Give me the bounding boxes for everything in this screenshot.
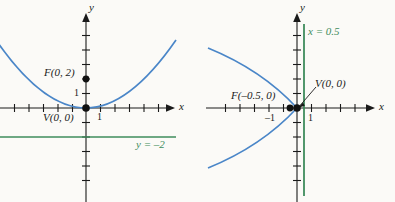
x-tick-label-1: 1 xyxy=(308,113,313,123)
x-tick-label-neg1: –1 xyxy=(265,113,275,123)
right-panel-canvas xyxy=(198,0,395,202)
vertex-label: V(0, 0) xyxy=(43,112,74,123)
parabola-figure: x y F(0, 2) V(0, 0) y = –2 1 1 xyxy=(0,0,395,202)
vertex-label: V(0, 0) xyxy=(315,78,346,89)
focus-point xyxy=(83,76,90,83)
focus-label: F(–0.5, 0) xyxy=(231,90,275,101)
y-axis-label: y xyxy=(300,2,305,13)
x-axis-label: x xyxy=(379,101,384,112)
focus-point xyxy=(287,105,294,112)
left-parabola-panel: x y F(0, 2) V(0, 0) y = –2 1 1 xyxy=(0,0,198,202)
x-tick-label-1: 1 xyxy=(97,112,102,122)
right-parabola-panel: x y x = 0.5 F(–0.5, 0) V(0, 0) –1 1 xyxy=(198,0,395,202)
x-axis-label: x xyxy=(179,101,184,112)
y-tick-label-1: 1 xyxy=(74,88,79,98)
vertex-point xyxy=(82,104,90,112)
vertex-leader-line xyxy=(301,87,317,105)
y-axis-label: y xyxy=(89,2,94,13)
vertex-point xyxy=(293,104,301,112)
directrix-label: x = 0.5 xyxy=(308,26,340,37)
focus-label: F(0, 2) xyxy=(44,67,75,78)
directrix-label: y = –2 xyxy=(136,139,165,150)
left-panel-canvas xyxy=(0,0,198,202)
